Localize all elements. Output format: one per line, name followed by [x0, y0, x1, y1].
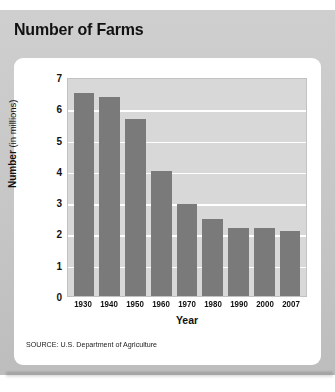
bar-slot [200, 79, 226, 296]
y-axis-tick-label: 4 [32, 166, 62, 177]
bar[interactable] [125, 119, 146, 296]
y-axis-tick-label: 2 [32, 229, 62, 240]
x-axis-title: Year [67, 314, 307, 326]
x-axis-tick-label: 1960 [150, 299, 173, 309]
bar[interactable] [99, 97, 120, 296]
x-axis-tick-label: 1990 [228, 299, 251, 309]
y-axis-title-bold: Number [7, 150, 18, 188]
y-axis-tick-label: 1 [32, 260, 62, 271]
y-axis-title-unit: (in millions) [7, 100, 18, 151]
bar-slot [277, 79, 303, 296]
bar[interactable] [202, 219, 223, 296]
bar-slot [123, 79, 149, 296]
bar[interactable] [151, 171, 172, 296]
bar-slot [174, 79, 200, 296]
bar[interactable] [228, 228, 249, 296]
bar-slot [251, 79, 277, 296]
x-axis-ticks: 193019401950196019701980199020002007 [67, 299, 307, 309]
bar[interactable] [254, 228, 275, 296]
bar-slot [97, 79, 123, 296]
frame-shadow [6, 372, 333, 378]
plot-area [67, 78, 307, 297]
y-axis-tick-label: 3 [32, 198, 62, 209]
x-axis-tick-label: 1940 [98, 299, 121, 309]
bar-slot [148, 79, 174, 296]
plot-wrapper: Number (in millions) 76543210 1930194019… [14, 58, 321, 365]
y-axis-title: Number (in millions) [7, 100, 18, 188]
x-axis-tick-label: 2007 [280, 299, 303, 309]
bar-series [68, 79, 306, 296]
bar-slot [226, 79, 252, 296]
chart-screenshot: Number of Farms Number (in millions) 765… [0, 0, 335, 392]
x-axis-tick-label: 1930 [72, 299, 95, 309]
y-axis-tick-label: 6 [32, 104, 62, 115]
source-note: SOURCE: U.S. Department of Agriculture [26, 340, 157, 349]
y-axis-ticks: 76543210 [28, 78, 62, 297]
y-axis-tick-label: 5 [32, 135, 62, 146]
page-title: Number of Farms [14, 20, 143, 40]
bar[interactable] [177, 204, 198, 296]
bar[interactable] [280, 231, 301, 296]
y-axis-tick-label: 7 [32, 73, 62, 84]
x-axis-tick-label: 1980 [202, 299, 225, 309]
y-axis-tick-label: 0 [32, 292, 62, 303]
x-axis-tick-label: 2000 [254, 299, 277, 309]
bar-slot [71, 79, 97, 296]
bar[interactable] [74, 93, 95, 296]
x-axis-tick-label: 1950 [124, 299, 147, 309]
x-axis-tick-label: 1970 [176, 299, 199, 309]
chart-card: Number (in millions) 76543210 1930194019… [14, 58, 321, 365]
